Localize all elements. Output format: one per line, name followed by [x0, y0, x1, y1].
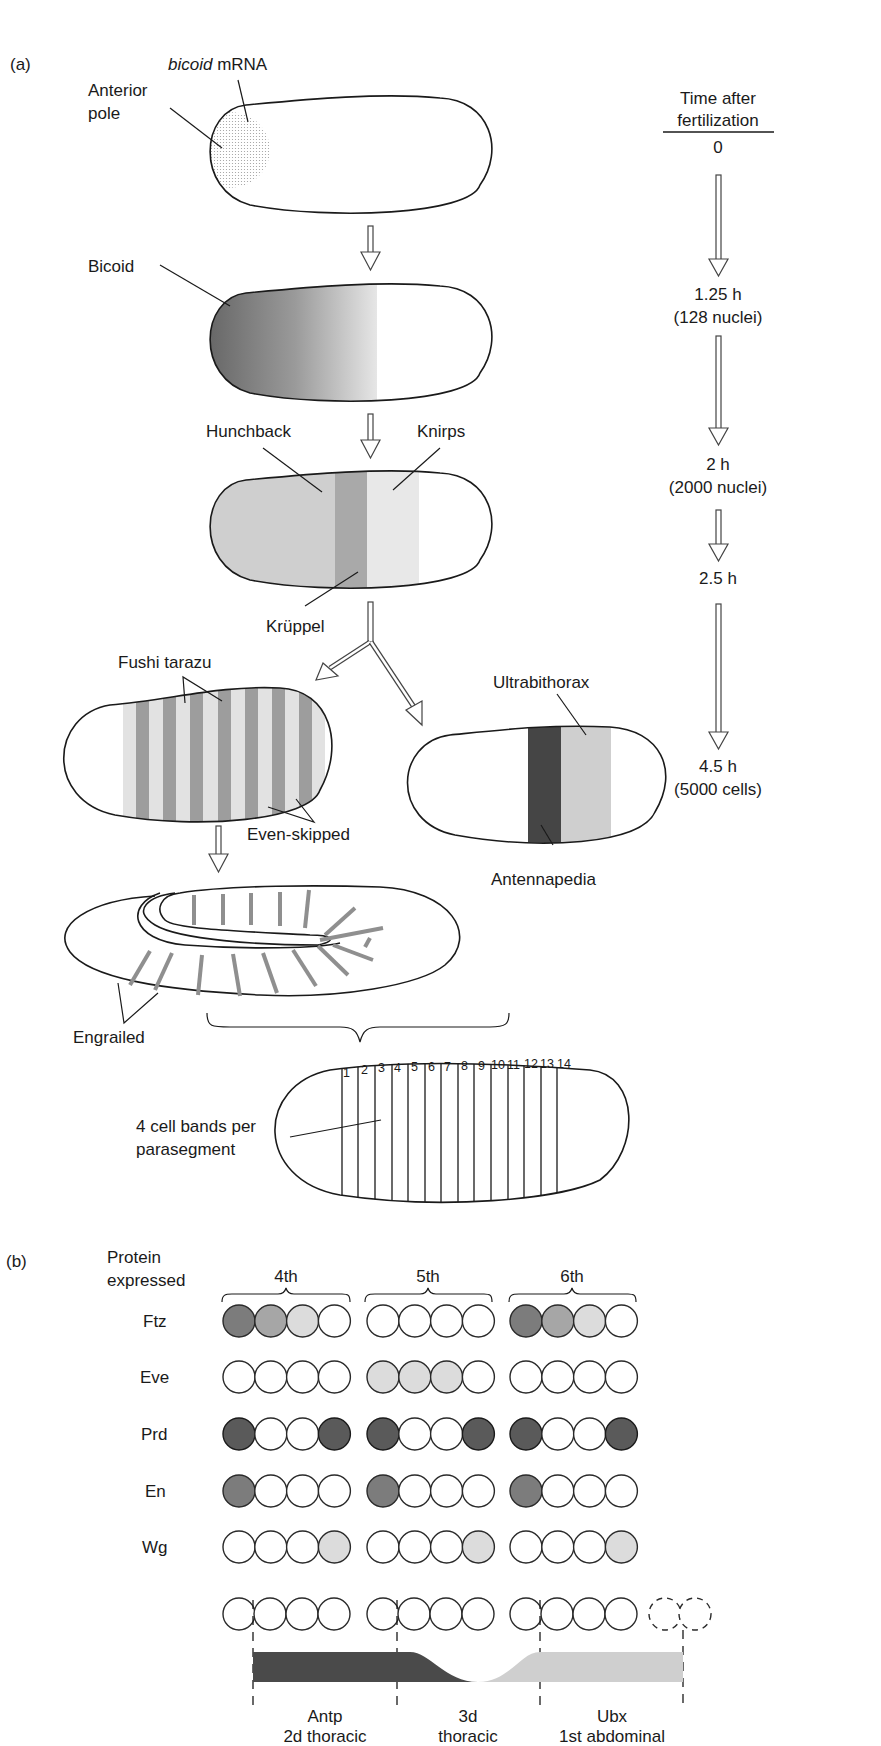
cell-mid — [255, 1305, 287, 1337]
time-4-5h: 4.5 h — [699, 757, 737, 776]
cell-none — [605, 1305, 637, 1337]
row-prd: Prd — [141, 1418, 637, 1450]
time-2-5h: 2.5 h — [699, 569, 737, 588]
svg-text:14: 14 — [557, 1057, 571, 1071]
cell-light — [287, 1305, 319, 1337]
cell-dark — [462, 1418, 494, 1450]
row-wg: Wg — [142, 1531, 637, 1563]
cell-none — [431, 1418, 463, 1450]
even-skipped-label: Even-skipped — [247, 825, 350, 844]
time-2h: 2 h — [706, 455, 730, 474]
svg-text:10: 10 — [491, 1058, 505, 1072]
row-label: Wg — [142, 1538, 168, 1557]
cell-dark — [318, 1418, 350, 1450]
time-1-25h-detail: (128 nuclei) — [674, 308, 763, 327]
embryo-stage-2-bicoid-protein: Bicoid — [88, 257, 492, 420]
cell-none — [367, 1531, 399, 1563]
time-0: 0 — [713, 138, 722, 157]
protein-expressed-label-1: Protein — [107, 1248, 161, 1267]
knirps-label: Knirps — [417, 422, 465, 441]
cell-none — [255, 1531, 287, 1563]
cell-dark2 — [510, 1475, 542, 1507]
svg-text:4th: 4th — [274, 1267, 298, 1286]
embryo-stage-4-homeotic: Ultrabithorax Antennapedia — [408, 673, 666, 889]
bicoid-label: Bicoid — [88, 257, 134, 276]
domain-labels: Antp 2d thoracic 3d thoracic Ubx 1st abd… — [283, 1707, 665, 1746]
svg-text:13: 13 — [540, 1057, 554, 1071]
cell-none — [462, 1305, 494, 1337]
cell-dark — [223, 1418, 255, 1450]
cell-mid — [542, 1305, 574, 1337]
time-4-5h-detail: (5000 cells) — [674, 780, 762, 799]
down-arrow-icon — [209, 826, 228, 872]
cell-none — [510, 1361, 542, 1393]
cell-light — [431, 1361, 463, 1393]
row-label: Prd — [141, 1425, 167, 1444]
cell-none — [399, 1305, 431, 1337]
time-1-25h: 1.25 h — [694, 285, 741, 304]
cell-dark — [367, 1418, 399, 1450]
cell-none — [255, 1361, 287, 1393]
svg-text:4: 4 — [394, 1061, 401, 1075]
engrailed-label: Engrailed — [73, 1028, 145, 1047]
svg-text:6: 6 — [428, 1060, 435, 1074]
parasegment-headers: 4th 5th 6th — [222, 1267, 636, 1302]
svg-text:5th: 5th — [416, 1267, 440, 1286]
cell-none — [399, 1531, 431, 1563]
cell-none — [542, 1418, 574, 1450]
hunchback-label: Hunchback — [206, 422, 292, 441]
cell-dark — [605, 1418, 637, 1450]
cell-none — [223, 1531, 255, 1563]
cell-none — [223, 1361, 255, 1393]
cell-light — [318, 1531, 350, 1563]
domain-3d-gene: 3d — [459, 1707, 478, 1726]
down-arrow-icon — [361, 226, 380, 270]
row-label: En — [145, 1482, 166, 1501]
cell-none — [318, 1475, 350, 1507]
cell-light — [574, 1305, 606, 1337]
cell-bands-note-2: parasegment — [136, 1140, 236, 1159]
cell-none — [510, 1531, 542, 1563]
cell-bands-note-1: 4 cell bands per — [136, 1117, 256, 1136]
homeotic-domain-bar — [253, 1652, 683, 1682]
cell-none — [605, 1475, 637, 1507]
cell-light — [605, 1531, 637, 1563]
cell-dark2 — [223, 1475, 255, 1507]
drosophila-segmentation-figure: (a) bicoid mRNA Anterior pole Bicoid — [0, 0, 881, 1746]
cell-light — [367, 1361, 399, 1393]
embryo-stage-4-pair-rule: Fushi tarazu Even-skipped — [64, 653, 350, 844]
bicoid-mrna-label: bicoid mRNA — [168, 55, 268, 74]
antennapedia-label: Antennapedia — [491, 870, 596, 889]
svg-text:8: 8 — [461, 1059, 468, 1073]
cell-none — [542, 1475, 574, 1507]
domain-ubx-gene: Ubx — [597, 1707, 628, 1726]
cell-none — [287, 1531, 319, 1563]
cell-none — [431, 1305, 463, 1337]
expression-grid: Ftz Eve Prd En Wg — [140, 1305, 637, 1563]
cell-none — [574, 1531, 606, 1563]
svg-text:12: 12 — [524, 1057, 538, 1071]
cell-none — [605, 1361, 637, 1393]
embryo-stage-1-bicoid-mrna: bicoid mRNA Anterior pole — [88, 55, 492, 213]
ultrabithorax-label: Ultrabithorax — [493, 673, 590, 692]
panel-b-label: (b) — [6, 1252, 27, 1271]
time-2h-detail: (2000 nuclei) — [669, 478, 767, 497]
svg-text:2: 2 — [361, 1063, 368, 1077]
panel-a-label: (a) — [10, 55, 31, 74]
cell-light — [462, 1531, 494, 1563]
fushi-tarazu-label: Fushi tarazu — [118, 653, 212, 672]
anterior-pole-label-2: pole — [88, 104, 120, 123]
embryo-stage-6-cell-bands: 1 2 3 4 5 6 7 8 9 10 11 12 13 14 4 cell … — [136, 1057, 629, 1210]
cell-none — [255, 1475, 287, 1507]
svg-text:9: 9 — [478, 1059, 485, 1073]
cell-none — [367, 1305, 399, 1337]
brace-icon — [207, 1013, 509, 1042]
cell-dark — [510, 1418, 542, 1450]
timeline: Time after fertilization 0 1.25 h (128 n… — [663, 89, 774, 799]
timeline-title-1: Time after — [680, 89, 756, 108]
cell-none — [431, 1475, 463, 1507]
row-eve: Eve — [140, 1361, 637, 1393]
svg-text:11: 11 — [507, 1058, 520, 1072]
row-en: En — [145, 1475, 637, 1507]
cell-none — [574, 1475, 606, 1507]
